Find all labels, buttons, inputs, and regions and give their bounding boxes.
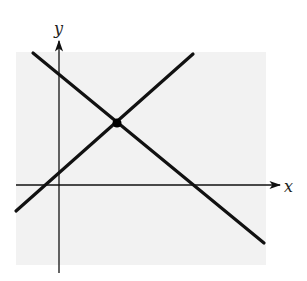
- plot-background: [16, 52, 266, 265]
- y-axis-label: y: [53, 19, 64, 38]
- coordinate-plane: x y: [0, 0, 307, 281]
- intersection-point: [113, 119, 122, 128]
- x-axis-label: x: [284, 177, 293, 196]
